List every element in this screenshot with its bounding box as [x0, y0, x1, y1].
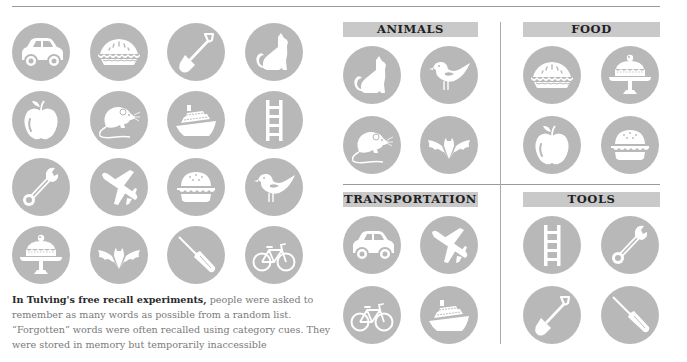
car-icon — [343, 216, 401, 274]
apple-icon — [12, 91, 70, 149]
category-header-tools: TOOLS — [523, 192, 660, 207]
top-rule — [12, 6, 660, 7]
category-header-animals: ANIMALS — [343, 22, 478, 37]
burger-icon — [601, 116, 659, 174]
ladder-icon — [523, 216, 581, 274]
category-divider-vertical — [500, 22, 501, 344]
apple-icon — [523, 116, 581, 174]
bird-icon — [420, 46, 478, 104]
screwdriver-icon — [167, 226, 225, 284]
pie-icon — [523, 46, 581, 104]
ship-icon — [167, 91, 225, 149]
cake-icon — [12, 226, 70, 284]
wrench-icon — [12, 158, 70, 216]
mouse-icon — [343, 116, 401, 174]
cake-icon — [601, 46, 659, 104]
pie-icon — [90, 23, 148, 81]
caption: In Tulving's free recall experiments, pe… — [12, 292, 342, 352]
cat-icon — [343, 46, 401, 104]
mouse-icon — [90, 91, 148, 149]
bicycle-icon — [343, 286, 401, 344]
bat-icon — [90, 226, 148, 284]
category-header-food: FOOD — [523, 22, 660, 37]
screwdriver-icon — [601, 286, 659, 344]
bat-icon — [420, 116, 478, 174]
wrench-icon — [601, 216, 659, 274]
bicycle-icon — [245, 226, 303, 284]
car-icon — [12, 23, 70, 81]
airplane-icon — [420, 216, 478, 274]
caption-lead: In Tulving's free recall experiments, — [12, 294, 207, 305]
ship-icon — [420, 286, 478, 344]
cat-icon — [245, 23, 303, 81]
shovel-icon — [523, 286, 581, 344]
shovel-icon — [167, 23, 225, 81]
airplane-icon — [90, 158, 148, 216]
category-divider-horizontal — [343, 184, 660, 185]
bird-icon — [245, 158, 303, 216]
burger-icon — [167, 158, 225, 216]
ladder-icon — [245, 91, 303, 149]
category-header-transportation: TRANSPORTATION — [343, 192, 478, 207]
